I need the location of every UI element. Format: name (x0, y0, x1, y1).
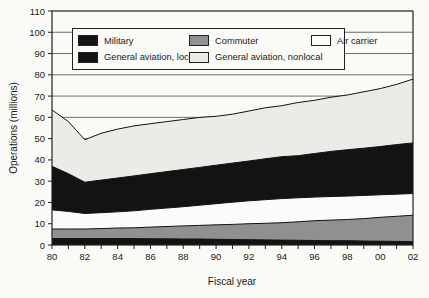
x-tick-label: 84 (112, 251, 123, 262)
x-tick-label: 98 (342, 251, 353, 262)
legend-label-air-carrier: Air carrier (337, 36, 377, 46)
x-tick-label: 02 (408, 251, 419, 262)
x-tick-label: 88 (178, 251, 189, 262)
y-tick-label: 110 (30, 6, 45, 17)
y-tick-label: 90 (34, 48, 45, 59)
legend-swatch-commuter (189, 35, 209, 46)
legend-swatch-air-carrier (311, 35, 331, 46)
legend-item-ga-nonlocal: General aviation, nonlocal (189, 52, 311, 63)
x-tick-label: 82 (80, 251, 91, 262)
legend-swatch-ga-local (78, 52, 98, 63)
y-tick-label: 60 (34, 112, 45, 123)
legend: Military Commuter Air carrier General av… (72, 28, 345, 70)
x-tick-label: 94 (276, 251, 287, 262)
figure: 0102030405060708090100110808284868890929… (0, 0, 429, 298)
x-tick-label: 80 (47, 251, 58, 262)
legend-label-commuter: Commuter (215, 36, 258, 46)
legend-label-ga-nonlocal: General aviation, nonlocal (215, 52, 323, 62)
y-tick-label: 40 (34, 154, 45, 165)
legend-item-commuter: Commuter (189, 35, 311, 46)
legend-item-ga-local: General aviation, local (78, 52, 189, 63)
y-tick-label: 70 (34, 91, 45, 102)
x-tick-label: 00 (375, 251, 386, 262)
x-axis-title: Fiscal year (132, 276, 332, 287)
y-tick-label: 10 (34, 218, 45, 229)
y-tick-label: 80 (34, 69, 45, 80)
y-tick-label: 100 (29, 27, 45, 38)
legend-item-military: Military (78, 35, 189, 46)
x-tick-label: 92 (244, 251, 255, 262)
x-tick-label: 86 (145, 251, 156, 262)
legend-item-air-carrier: Air carrier (311, 35, 377, 46)
legend-label-ga-local: General aviation, local (104, 52, 196, 62)
x-tick-label: 96 (309, 251, 320, 262)
y-tick-label: 30 (34, 176, 45, 187)
legend-swatch-ga-nonlocal (189, 52, 209, 63)
x-tick-label: 90 (211, 251, 222, 262)
y-tick-label: 20 (34, 197, 45, 208)
legend-label-military: Military (104, 36, 133, 46)
legend-swatch-military (78, 35, 98, 46)
y-tick-label: 0 (40, 240, 45, 251)
y-axis-title: Operations (millions) (8, 33, 22, 223)
y-tick-label: 50 (34, 133, 45, 144)
